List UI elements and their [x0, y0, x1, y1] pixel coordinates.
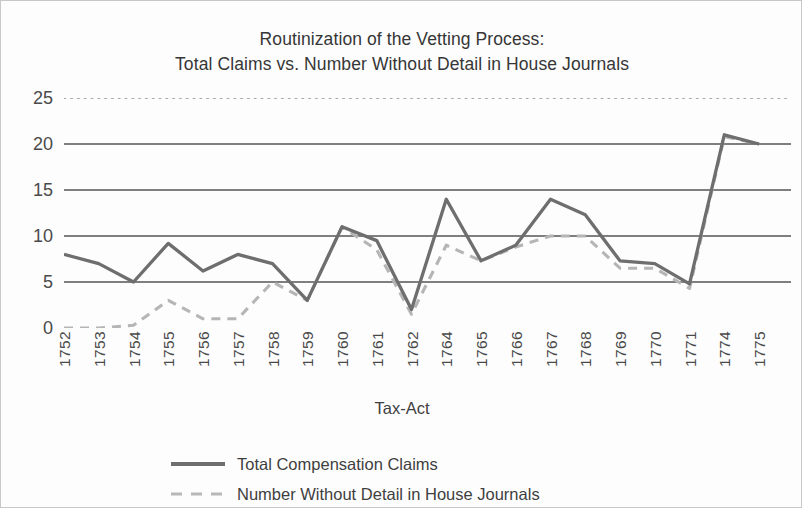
- legend-label: Number Without Detail in House Journals: [237, 485, 540, 504]
- y-tick-label-15: 15: [7, 180, 53, 201]
- x-tick-label-1761: 1761: [369, 331, 387, 367]
- chart-title: Routinization of the Vetting Process: To…: [1, 27, 802, 77]
- legend-item[interactable]: Number Without Detail in House Journals: [1, 479, 802, 508]
- x-tick-label-1775: 1775: [751, 331, 769, 367]
- x-tick-label-1769: 1769: [612, 331, 630, 367]
- legend-item[interactable]: Total Compensation Claims: [1, 449, 802, 479]
- y-tick-label-20: 20: [7, 134, 53, 155]
- x-tick-label-1767: 1767: [543, 331, 561, 367]
- x-tick-label-1762: 1762: [404, 331, 422, 367]
- y-tick-label-0: 0: [7, 318, 53, 339]
- x-tick-label-1753: 1753: [91, 331, 109, 367]
- x-tick-label-1754: 1754: [126, 331, 144, 367]
- x-axis-title: Tax-Act: [1, 399, 802, 418]
- y-tick-label-5: 5: [7, 272, 53, 293]
- x-tick-label-1760: 1760: [334, 331, 352, 367]
- x-tick-label-1766: 1766: [508, 331, 526, 367]
- x-tick-label-1771: 1771: [682, 331, 700, 367]
- x-tick-label-1770: 1770: [647, 331, 665, 367]
- x-tick-label-1757: 1757: [230, 331, 248, 367]
- series-line-total-claims: [64, 135, 759, 310]
- y-tick-label-25: 25: [7, 88, 53, 109]
- legend-label: Total Compensation Claims: [237, 455, 438, 474]
- chart-figure: Routinization of the Vetting Process: To…: [0, 0, 802, 508]
- x-tick-label-1752: 1752: [56, 331, 74, 367]
- plot-area: [64, 98, 791, 328]
- chart-title-line-2: Total Claims vs. Number Without Detail i…: [1, 52, 802, 77]
- legend-swatch-dashed-line-icon: [169, 488, 227, 500]
- x-tick-label-1774: 1774: [716, 331, 734, 367]
- y-tick-label-10: 10: [7, 226, 53, 247]
- x-tick-label-1759: 1759: [299, 331, 317, 367]
- x-axis: 1752175317541755175617571758175917601761…: [64, 331, 791, 393]
- x-tick-label-1765: 1765: [473, 331, 491, 367]
- series-line-without-detail: [64, 137, 759, 328]
- x-tick-label-1758: 1758: [265, 331, 283, 367]
- legend-swatch-solid-line-icon: [169, 458, 227, 470]
- x-tick-label-1756: 1756: [195, 331, 213, 367]
- x-tick-label-1768: 1768: [577, 331, 595, 367]
- chart-title-line-1: Routinization of the Vetting Process:: [1, 27, 802, 52]
- x-tick-label-1764: 1764: [438, 331, 456, 367]
- series-lines: [64, 98, 791, 328]
- x-tick-label-1755: 1755: [160, 331, 178, 367]
- chart-legend: Total Compensation ClaimsNumber Without …: [1, 449, 802, 508]
